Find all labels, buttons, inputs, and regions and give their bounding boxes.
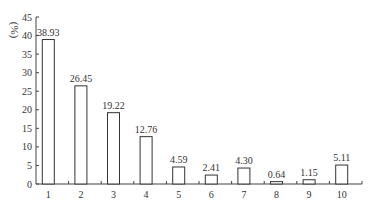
x-tick-label: 4 [144, 189, 149, 200]
x-tick-label: 1 [46, 189, 51, 200]
x-tick-label: 8 [274, 189, 279, 200]
bar-value-label: 5.11 [333, 152, 350, 163]
bar-value-label: 4.30 [235, 155, 253, 166]
bar-8: 0.64 [268, 169, 286, 184]
y-axis-label: (%) [8, 22, 21, 39]
bar-value-label: 4.59 [170, 154, 188, 165]
x-tick-label: 10 [337, 189, 347, 200]
bar-6: 2.41 [203, 162, 221, 184]
bar-value-label: 19.22 [102, 100, 125, 111]
x-tick-label: 3 [111, 189, 116, 200]
bar-4: 12.76 [135, 124, 158, 184]
bar-9: 1.15 [300, 167, 318, 184]
bar-1: 38.93 [37, 27, 60, 184]
y-tick-label: 25 [22, 86, 32, 97]
x-tick-label: 6 [209, 189, 214, 200]
bar-7: 4.30 [235, 155, 253, 184]
x-tick-label: 5 [176, 189, 181, 200]
y-tick-label: 5 [27, 160, 32, 171]
x-tick-label: 2 [78, 189, 83, 200]
y-tick-label: 15 [22, 123, 32, 134]
bar-chart: 051015202530354045 12345678910 38.9326.4… [0, 0, 370, 210]
y-axis: 051015202530354045 [22, 12, 39, 190]
bar-value-label: 2.41 [203, 162, 221, 173]
y-tick-label: 30 [22, 67, 32, 78]
bar-3: 19.22 [102, 100, 125, 184]
y-tick-label: 40 [22, 30, 32, 41]
bar-value-label: 12.76 [135, 124, 158, 135]
chart-canvas: 051015202530354045 12345678910 38.9326.4… [0, 0, 370, 210]
bar-value-label: 1.15 [300, 167, 318, 178]
x-tick-label: 9 [307, 189, 312, 200]
bar-value-label: 0.64 [268, 169, 286, 180]
y-tick-label: 10 [22, 141, 32, 152]
bar-2: 26.45 [70, 73, 93, 184]
bar-5: 4.59 [170, 154, 188, 184]
bar-value-label: 38.93 [37, 27, 60, 38]
y-tick-label: 45 [22, 12, 32, 23]
bars: 38.9326.4519.2212.764.592.414.300.641.15… [37, 27, 350, 184]
bar-value-label: 26.45 [70, 73, 93, 84]
y-tick-label: 0 [27, 179, 32, 190]
y-tick-label: 35 [22, 49, 32, 60]
y-tick-label: 20 [22, 104, 32, 115]
x-tick-label: 7 [241, 189, 246, 200]
bar-10: 5.11 [333, 152, 350, 184]
